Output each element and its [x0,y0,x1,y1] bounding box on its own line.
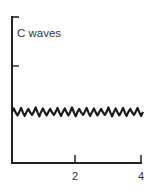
chart-title: C waves [17,27,61,39]
x-tick-label-2: 2 [72,170,78,182]
x-tick-label-4: 4 [138,170,144,182]
chart: C waves 2 4 [0,0,153,193]
c-wave-trace [12,107,143,116]
